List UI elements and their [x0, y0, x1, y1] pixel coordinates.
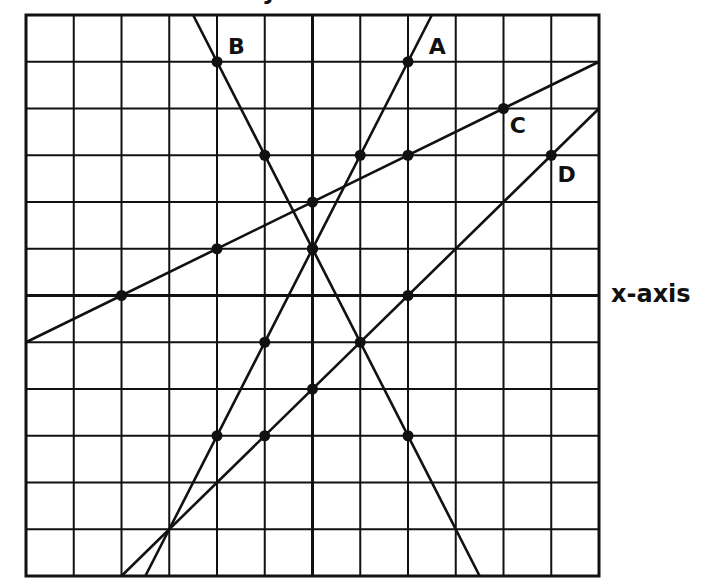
point-b [403, 430, 414, 441]
y-axis-label: y-axis [262, 0, 342, 5]
point-c [116, 290, 127, 301]
point-a [259, 337, 270, 348]
point-d [355, 337, 366, 348]
line-a-label: A [429, 34, 446, 59]
point-c [498, 103, 509, 114]
x-axis-label: x-axis [611, 280, 691, 308]
point-b [212, 56, 223, 67]
point-d [259, 430, 270, 441]
line-b-label: B [228, 34, 245, 59]
point-d [546, 150, 557, 161]
line-c-label: C [510, 113, 526, 138]
point-d [403, 290, 414, 301]
point-c [307, 197, 318, 208]
line-d-label: D [558, 162, 576, 187]
point-c [212, 243, 223, 254]
point-b [307, 243, 318, 254]
point-a [355, 150, 366, 161]
coordinate-plane [0, 0, 713, 588]
point-a [403, 56, 414, 67]
axes [26, 15, 599, 576]
point-d [307, 384, 318, 395]
point-a [212, 430, 223, 441]
point-c [403, 150, 414, 161]
point-b [259, 150, 270, 161]
